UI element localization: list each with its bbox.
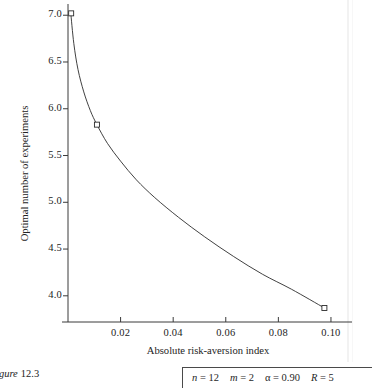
parameter-box: n = 12m = 2α = 0.90R = 5 [182, 367, 372, 388]
x-axis-tick-label: 0.10 [309, 327, 353, 338]
parameter-symbol: m [230, 372, 238, 383]
parameter-item: α = 0.90 [265, 372, 300, 383]
y-axis-title: Optimal number of experiments [19, 64, 30, 284]
data-point-marker [94, 122, 99, 127]
parameter-value: = 0.90 [270, 372, 300, 383]
y-axis-tick-label: 7.0 [22, 8, 62, 19]
parameter-value: = 2 [238, 372, 254, 383]
parameter-value: = 5 [317, 372, 333, 383]
parameter-item: n = 12 [192, 372, 219, 383]
x-axis-tick-label: 0.06 [204, 327, 248, 338]
x-axis-ticks [121, 317, 331, 322]
x-axis-tick-label: 0.02 [99, 327, 143, 338]
figure-caption-number: 12.3 [21, 368, 39, 379]
x-axis-tick-label: 0.04 [151, 327, 195, 338]
y-axis-tick-label: 4.0 [22, 289, 62, 300]
data-point-marker [69, 11, 74, 16]
data-point-marker [322, 305, 327, 310]
x-axis-tick-label: 0.08 [256, 327, 300, 338]
parameter-value: = 12 [197, 372, 219, 383]
parameter-item: m = 2 [230, 372, 254, 383]
parameter-list: n = 12m = 2α = 0.90R = 5 [192, 372, 345, 383]
x-axis-title: Absolute risk-aversion index [68, 345, 348, 356]
figure-caption-label: igure [0, 368, 18, 379]
data-curve [71, 11, 325, 307]
figure-caption: igure12.3 [0, 368, 39, 379]
y-axis-ticks [63, 15, 68, 296]
parameter-item: R = 5 [311, 372, 334, 383]
data-point-markers [69, 11, 327, 311]
